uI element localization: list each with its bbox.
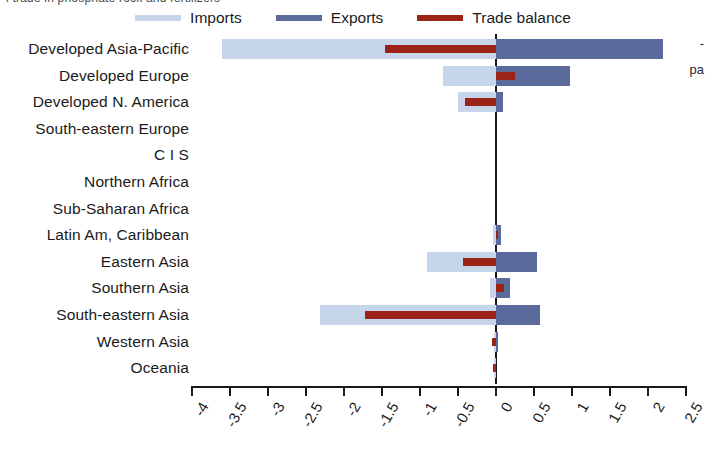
bar-trade-balance — [496, 72, 515, 80]
category-label: South-eastern Europe — [35, 120, 189, 138]
axis-tick-label: -0.5 — [450, 399, 478, 430]
category-label: Western Asia — [97, 333, 189, 351]
axis-tick — [457, 386, 459, 396]
bar-exports — [496, 39, 663, 59]
category-label: C I S — [154, 146, 189, 164]
category-label: South-eastern Asia — [56, 306, 189, 324]
bar-trade-balance — [385, 45, 496, 53]
bar-trade-balance — [465, 98, 496, 106]
legend-swatch-exports — [276, 15, 322, 21]
axis-tick-label: 0 — [497, 399, 516, 415]
axis-tick — [495, 386, 497, 396]
axis-tick — [191, 386, 193, 396]
category-label: Developed Asia-Pacific — [28, 40, 189, 58]
chart-row: Southern Asia — [0, 275, 706, 301]
bar-exports — [496, 305, 540, 325]
axis-tick — [343, 386, 345, 396]
category-label: Northern Africa — [84, 173, 189, 191]
axis-tick-label: -1 — [418, 399, 439, 419]
chart-row: Sub-Saharan Africa — [0, 196, 706, 222]
bar-exports — [496, 252, 537, 272]
axis-tick — [685, 386, 687, 396]
category-label: Sub-Saharan Africa — [53, 200, 189, 218]
bar-trade-balance — [496, 231, 498, 239]
chart-row: Developed Asia-Pacific — [0, 36, 706, 62]
category-label: Developed Europe — [59, 67, 189, 85]
bar-trade-balance — [463, 258, 496, 266]
category-label: Latin Am, Caribbean — [47, 226, 189, 244]
axis-tick — [419, 386, 421, 396]
legend-swatch-imports — [135, 15, 181, 21]
bar-trade-balance — [365, 311, 496, 319]
chart-row: Northern Africa — [0, 169, 706, 195]
bar-trade-balance — [496, 284, 504, 292]
x-axis: -4-3.5-3-2.5-2-1.5-1-0.500.511.522.5 — [0, 386, 706, 455]
chart-row: Oceania — [0, 355, 706, 381]
chart-row: South-eastern Europe — [0, 116, 706, 142]
axis-tick-label: 1 — [573, 399, 592, 415]
legend-item-imports: Imports — [135, 9, 242, 27]
chart-row: Developed Europe — [0, 63, 706, 89]
chart-row: Developed N. America — [0, 89, 706, 115]
legend-label-trade-balance: Trade balance — [472, 9, 571, 27]
bar-exports — [496, 92, 503, 112]
chart-legend: ImportsExportsTrade balance — [0, 6, 706, 30]
chart-row: Eastern Asia — [0, 249, 706, 275]
category-label: Oceania — [131, 359, 189, 377]
chart-row: Latin Am, Caribbean — [0, 222, 706, 248]
axis-tick-label: -3 — [266, 399, 287, 419]
chart-row: C I S — [0, 142, 706, 168]
legend-swatch-trade-balance — [417, 15, 463, 21]
category-label: Eastern Asia — [101, 253, 189, 271]
chart-row: Western Asia — [0, 329, 706, 355]
axis-tick — [647, 386, 649, 396]
legend-label-imports: Imports — [190, 9, 242, 27]
axis-tick-label: -2 — [342, 399, 363, 419]
chart-row: South-eastern Asia — [0, 302, 706, 328]
axis-tick — [533, 386, 535, 396]
legend-label-exports: Exports — [331, 9, 384, 27]
axis-tick — [609, 386, 611, 396]
axis-tick-label: -4 — [190, 399, 211, 419]
axis-tick-label: 0.5 — [529, 399, 554, 426]
category-label: Southern Asia — [91, 279, 189, 297]
legend-item-exports: Exports — [276, 9, 384, 27]
bar-trade-balance — [492, 338, 496, 346]
axis-tick-label: -2.5 — [298, 399, 326, 430]
chart-plot-area: Developed Asia-PacificDeveloped EuropeDe… — [0, 34, 706, 390]
axis-tick — [305, 386, 307, 396]
axis-tick — [229, 386, 231, 396]
bar-exports — [496, 332, 498, 352]
axis-tick-label: -1.5 — [374, 399, 402, 430]
category-label: Developed N. America — [33, 93, 189, 111]
axis-tick — [571, 386, 573, 396]
bar-imports — [443, 66, 496, 86]
caption-fragment: l trade in phosphate rock and fertilizer… — [6, 0, 220, 5]
axis-tick — [267, 386, 269, 396]
axis-tick — [381, 386, 383, 396]
legend-item-trade-balance: Trade balance — [417, 9, 571, 27]
axis-tick-label: 2.5 — [681, 399, 706, 426]
axis-tick-label: 1.5 — [605, 399, 630, 426]
axis-tick-label: -3.5 — [222, 399, 250, 430]
axis-tick-label: 2 — [649, 399, 668, 415]
bar-trade-balance — [493, 364, 496, 372]
